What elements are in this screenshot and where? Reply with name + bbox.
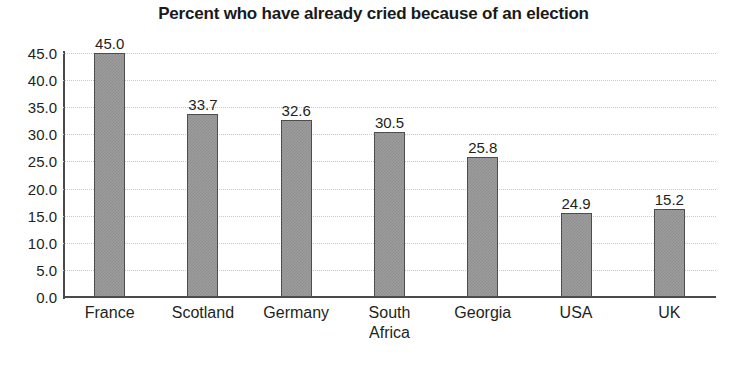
chart-title: Percent who have already cried because o… [0,4,747,24]
y-axis-tick-label: 0.0 [0,289,57,306]
x-axis-category-label: Georgia [436,303,529,323]
x-axis-category-label: USA [529,303,622,323]
x-axis-category-label: Scotland [156,303,249,323]
bar-value-label: 25.8 [468,139,497,156]
bar-value-label: 15.2 [655,191,684,208]
bar-value-label: 24.9 [561,195,590,212]
bar: 25.8 [467,157,498,297]
y-axis-tick-label: 45.0 [0,45,57,62]
bar: 33.7 [187,114,218,297]
bar: 15.2 [654,209,685,297]
x-axis-category-label: France [63,303,156,323]
gridline [63,53,716,54]
y-axis-tick-label: 15.0 [0,207,57,224]
bar-value-label: 33.7 [188,96,217,113]
y-axis-tick-label: 5.0 [0,261,57,278]
gridline [63,80,716,81]
x-axis-category-label: South Africa [343,303,436,344]
x-axis-category-label: Germany [250,303,343,323]
gridline [63,107,716,108]
bar-value-label: 32.6 [282,102,311,119]
bar: 30.5 [374,132,405,297]
plot-area: 45.033.732.630.525.824.915.2 [63,53,716,297]
y-axis-tick-label: 25.0 [0,153,57,170]
y-axis-tick-label: 30.0 [0,126,57,143]
y-axis-tick-label: 40.0 [0,72,57,89]
x-axis-category-label: UK [623,303,716,323]
y-axis-tick-label: 35.0 [0,99,57,116]
chart-page: Percent who have already cried because o… [0,0,747,365]
bar: 24.9 [561,213,592,297]
y-axis-tick-label: 20.0 [0,180,57,197]
y-axis-tick-label: 10.0 [0,234,57,251]
bar: 45.0 [94,53,125,297]
bar-value-label: 30.5 [375,114,404,131]
bar: 32.6 [281,120,312,297]
bar-value-label: 45.0 [95,35,124,52]
